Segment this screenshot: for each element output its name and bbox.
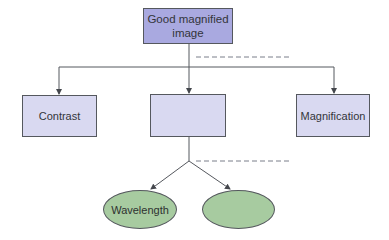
node-wavelength: Wavelength xyxy=(103,190,177,229)
node-blank-middle xyxy=(150,94,226,137)
node-blank-ellipse xyxy=(202,190,275,229)
node-magnification-label: Magnification xyxy=(301,109,366,123)
root-node-label: Good magnified image xyxy=(144,12,232,40)
node-contrast: Contrast xyxy=(22,95,97,137)
node-magnification: Magnification xyxy=(296,94,370,137)
node-wavelength-label: Wavelength xyxy=(111,204,169,216)
node-contrast-label: Contrast xyxy=(39,109,81,123)
root-node: Good magnified image xyxy=(143,8,233,44)
